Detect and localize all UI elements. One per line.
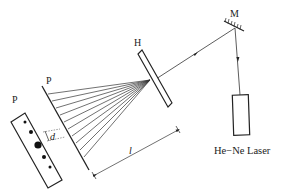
distance-tick (92, 172, 96, 179)
diffraction-setup-diagram: He−Ne Laser M H P (0, 0, 284, 194)
mirror-label: M (230, 8, 239, 19)
pattern-dot (42, 155, 46, 159)
distance-dimension (95, 130, 178, 175)
pattern-dot (49, 166, 52, 169)
beam-laser-mirror (235, 28, 240, 95)
beam-arrow-up-icon (236, 57, 239, 62)
spacing-dimension (45, 131, 49, 141)
pattern-label: P (12, 94, 18, 105)
pattern-card (11, 113, 62, 188)
distance-tick (176, 126, 180, 133)
distance-label: l (129, 145, 132, 156)
hologram-label: H (134, 37, 141, 48)
laser (232, 95, 249, 136)
pattern-dot (24, 121, 27, 124)
spacing-label: d (50, 131, 56, 142)
laser-label: He−Ne Laser (214, 145, 271, 156)
beam-arrow-icon (194, 52, 199, 56)
ray-fan (48, 80, 150, 157)
pattern-dot (29, 130, 33, 134)
screen-line-label: P (46, 75, 52, 86)
hologram-plate (138, 50, 172, 107)
pattern-dot (34, 141, 41, 148)
